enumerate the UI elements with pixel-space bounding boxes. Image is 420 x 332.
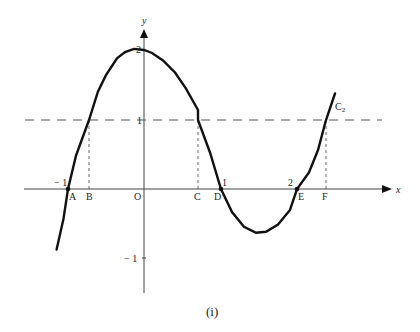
x-axis-label: x [395,184,401,195]
y-tick-1: 1 [137,115,142,126]
y-tick-neg1: − 1 [124,253,137,264]
label-D: D [214,191,221,202]
label-O: O [134,191,141,202]
curve-c2 [57,49,335,250]
x-tick-2: 2 [288,177,293,188]
curve-label: C2 [335,101,346,114]
cubic-graph: x y 2 1 − 1 − 1 1 2 A B O C D E F C2 (i) [0,0,420,332]
y-axis-arrow-icon [140,29,148,38]
label-B: B [86,191,93,202]
label-A: A [69,191,77,202]
figure-caption: (i) [206,304,218,319]
x-tick-neg1: − 1 [54,177,67,188]
x-tick-1: 1 [222,177,227,188]
label-F: F [322,191,328,202]
x-axis-arrow-icon [382,185,392,193]
y-axis-label: y [141,15,147,26]
label-E: E [298,191,304,202]
label-C: C [194,191,201,202]
